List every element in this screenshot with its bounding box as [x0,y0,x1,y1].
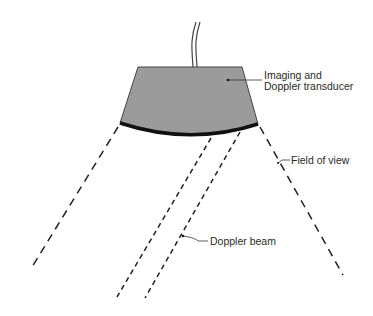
doppler-beam-right-line [145,132,240,298]
field-of-view-left-line [32,127,118,267]
transducer-cable [192,22,200,67]
transducer-label-line2: Doppler transducer [264,81,353,92]
doppler-beam-label: Doppler beam [210,236,276,247]
doppler-beam-leader [182,235,208,241]
transducer-body [120,67,258,135]
field-of-view-label: Field of view [291,155,349,166]
transducer-label: Imaging and Doppler transducer [264,70,353,92]
field-of-view-right-line [260,127,343,275]
doppler-beam-left-line [117,138,211,297]
field-of-view-leader [277,160,290,164]
